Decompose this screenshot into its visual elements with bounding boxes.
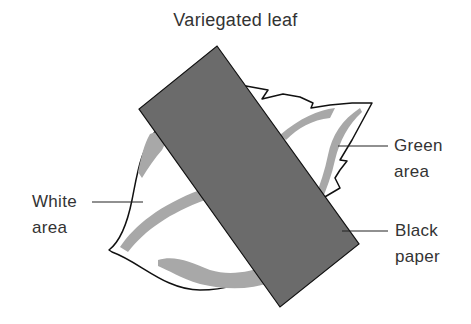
label-black-paper: Black paper <box>395 218 440 270</box>
label-green-area: Green area <box>394 133 443 185</box>
label-white-area: White area <box>32 189 77 241</box>
diagram-canvas: Variegated leaf Green area White area Bl… <box>0 0 471 324</box>
